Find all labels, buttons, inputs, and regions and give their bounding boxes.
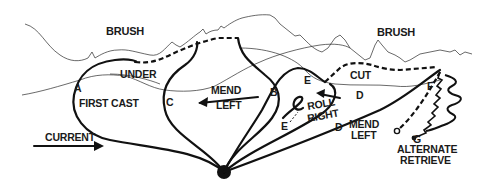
label-mend-left-2-line2: LEFT: [351, 129, 377, 141]
water-edge-line: [22, 44, 350, 95]
point-d-upper: D: [356, 89, 364, 101]
label-brush-left: BRUSH: [106, 25, 144, 37]
label-current: CURRENT: [45, 131, 96, 143]
roll-dashed-pointer: [290, 112, 298, 122]
label-mend-left-1-line2: LEFT: [216, 99, 242, 111]
point-e-upper: E: [304, 74, 311, 86]
label-first-cast: FIRST CAST: [79, 97, 140, 109]
label-mend-left-1-line1: MEND: [211, 84, 242, 96]
diagram-canvas: BRUSH BRUSH UNDER FIRST CAST CURRENT MEN…: [0, 0, 484, 190]
point-a: A: [74, 82, 82, 94]
mend-left-arrow-head: [198, 97, 208, 107]
under-dashed-line: [135, 38, 238, 63]
point-f: F: [427, 80, 434, 92]
label-alternate-retrieve-line2: RETRIEVE: [400, 154, 451, 166]
roll-loop: [283, 97, 303, 118]
point-c: C: [166, 96, 174, 108]
point-b: B: [270, 86, 278, 98]
alternate-retrieve-start-dot: [394, 128, 399, 133]
cut-dashed-line: [325, 63, 437, 82]
point-d-lower: D: [335, 121, 343, 133]
label-cut: CUT: [350, 69, 372, 81]
fly-cast-diagram: BRUSH BRUSH UNDER FIRST CAST CURRENT MEN…: [0, 0, 484, 190]
alternate-retrieve-dashed: [398, 72, 440, 130]
point-g: G: [413, 133, 421, 145]
brush-outline: [25, 15, 472, 62]
label-under: UNDER: [120, 68, 157, 80]
point-e-lower: E: [281, 120, 288, 132]
current-arrow-head: [94, 141, 104, 151]
label-brush-right: BRUSH: [377, 26, 415, 38]
